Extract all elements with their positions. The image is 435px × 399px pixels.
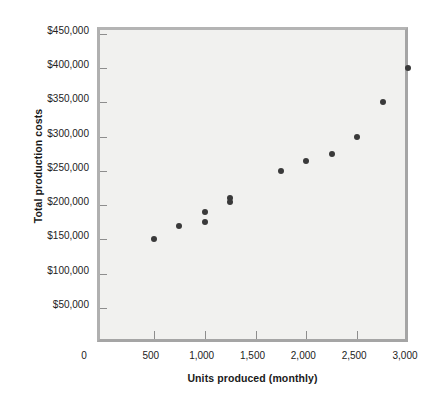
data-point bbox=[151, 236, 157, 242]
y-axis-tick bbox=[100, 308, 107, 309]
x-axis-tick-label: 3,000 bbox=[375, 350, 435, 361]
y-axis-tick-label: $450,000 bbox=[5, 25, 89, 36]
y-axis-tick-label: $100,000 bbox=[5, 265, 89, 276]
plot-area bbox=[97, 27, 408, 342]
y-axis-tick bbox=[100, 274, 107, 275]
x-axis-tick bbox=[256, 331, 257, 339]
data-point bbox=[380, 99, 386, 105]
y-axis-tick bbox=[100, 171, 107, 172]
y-axis-tick bbox=[100, 102, 107, 103]
x-axis-tick bbox=[154, 331, 155, 339]
y-axis-tick bbox=[100, 239, 107, 240]
data-point bbox=[202, 209, 208, 215]
y-axis-tick-label: $400,000 bbox=[5, 59, 89, 70]
y-axis-tick bbox=[100, 34, 107, 35]
data-point bbox=[354, 134, 360, 140]
data-point bbox=[202, 219, 208, 225]
y-axis-tick-label: $50,000 bbox=[5, 299, 89, 310]
y-axis-tick-label: $300,000 bbox=[5, 128, 89, 139]
data-point bbox=[176, 223, 182, 229]
data-point bbox=[303, 158, 309, 164]
y-axis-tick-label: $150,000 bbox=[5, 230, 89, 241]
y-axis-tick bbox=[100, 205, 107, 206]
x-axis-tick-label: 0 bbox=[54, 350, 114, 361]
y-axis-tick bbox=[100, 68, 107, 69]
data-point bbox=[329, 151, 335, 157]
x-axis-title: Units produced (monthly) bbox=[97, 372, 408, 384]
y-axis-tick-label: $250,000 bbox=[5, 162, 89, 173]
plot-canvas bbox=[100, 30, 405, 339]
x-axis-tick bbox=[357, 331, 358, 339]
x-axis-tick bbox=[205, 331, 206, 339]
y-axis-tick-label: $350,000 bbox=[5, 93, 89, 104]
data-point bbox=[278, 168, 284, 174]
x-axis-tick bbox=[306, 331, 307, 339]
y-axis-tick-label: $200,000 bbox=[5, 196, 89, 207]
scatter-chart: Total production costs $50,000$100,000$1… bbox=[0, 0, 435, 399]
data-point bbox=[227, 199, 233, 205]
y-axis-tick bbox=[100, 137, 107, 138]
data-point bbox=[405, 65, 411, 71]
